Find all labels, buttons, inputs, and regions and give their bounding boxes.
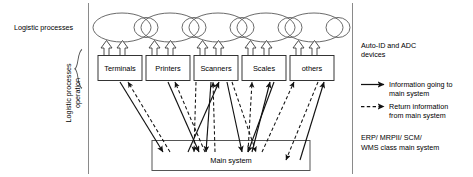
legend-solid-label-line1: Information going to: [389, 80, 453, 89]
device-to-process-block-arrows: [101, 41, 320, 57]
device-label-scales[interactable]: Scales: [242, 64, 286, 73]
device-label-terminals[interactable]: Terminals: [98, 64, 142, 73]
device-label-others[interactable]: others: [290, 64, 334, 73]
logistic-process-ellipses: [93, 13, 350, 42]
legend-devices-caption-line2: devices: [361, 50, 385, 59]
main-system-label[interactable]: Main system: [152, 156, 310, 165]
device-label-scanners[interactable]: Scanners: [194, 64, 238, 73]
device-label-printers[interactable]: Printers: [146, 64, 190, 73]
label-logistic-processes-operation-line2: operation: [73, 38, 82, 148]
legend-sample-arrows: [361, 85, 384, 107]
legend-main-system-caption-line2: WMS class main system: [361, 143, 439, 152]
label-logistic-processes-operation-line1: Logistic processes: [64, 38, 73, 148]
diagram-canvas: Logistic processes Logistic processes op…: [0, 0, 473, 177]
legend-dashed-label-line1: Return information: [389, 102, 448, 111]
legend-devices-caption-line1: Auto-ID and ADC: [361, 41, 416, 50]
legend-main-system-caption-line1: ERP/ MRPII/ SCM/: [361, 133, 422, 142]
legend-solid-label-line2: main system: [389, 89, 429, 98]
label-logistic-processes: Logistic processes: [14, 23, 73, 32]
legend-dashed-label-line2: from main system: [389, 111, 446, 120]
